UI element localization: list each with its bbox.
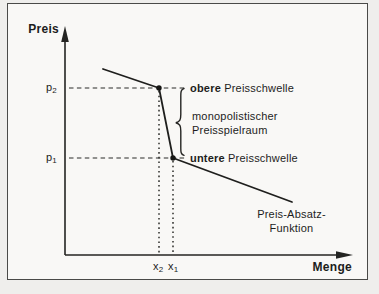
x2-sub: 2: [159, 265, 164, 274]
monopolistic-range-line2: Preisspielraum: [192, 124, 278, 138]
x2-tick-label: x2: [153, 260, 163, 273]
x1-tick-label: x1: [168, 260, 178, 273]
upper-kink-point: [156, 85, 161, 90]
monopolistic-range-label: monopolistischer Preisspielraum: [192, 110, 278, 137]
monopolistic-range-line1: monopolistischer: [192, 110, 278, 124]
lower-threshold-label: untere Preisschwelle: [190, 152, 298, 165]
demand-function-line1: Preis-Absatz-: [246, 207, 337, 221]
demand-function-line2: Funktion: [246, 221, 337, 235]
upper-threshold-bold: obere: [190, 82, 221, 94]
p1-sub: 1: [52, 156, 57, 165]
y-axis-title: Preis: [22, 23, 59, 36]
x-axis-arrow-icon: [336, 251, 353, 259]
x-axis-title: Menge: [311, 261, 352, 274]
x1-sub: 1: [174, 265, 179, 274]
diagram-page: Preis Menge p2 p1 x2 x1 obere Preisschwe…: [0, 0, 379, 294]
upper-threshold-label: obere Preisschwelle: [190, 82, 294, 95]
upper-threshold-rest: Preisschwelle: [221, 82, 294, 94]
lower-kink-point: [170, 155, 175, 160]
y-axis-arrow-icon: [61, 26, 69, 42]
p2-sub: 2: [52, 86, 57, 95]
lower-threshold-bold: untere: [190, 152, 225, 164]
p2-tick-label: p2: [46, 81, 57, 94]
price-range-brace: [176, 89, 184, 156]
price-quantity-plot: [0, 0, 379, 294]
lower-threshold-rest: Preisschwelle: [225, 152, 298, 164]
p1-tick-label: p1: [46, 151, 57, 164]
demand-function-label: Preis-Absatz- Funktion: [246, 207, 337, 235]
